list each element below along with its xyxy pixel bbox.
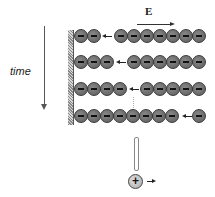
time-label: time (10, 65, 31, 77)
negative-ion (74, 82, 88, 96)
negative-ion (179, 55, 193, 69)
left-arrow-icon (119, 62, 126, 63)
negative-ion (140, 29, 154, 43)
field-arrow-icon (137, 24, 171, 25)
negative-ion (74, 55, 88, 69)
negative-ion (100, 109, 114, 123)
negative-ion (153, 55, 167, 69)
negative-ion (166, 55, 180, 69)
negative-ion (192, 109, 206, 123)
field-arrow-head (170, 22, 175, 26)
positive-ion-symbol: + (129, 174, 142, 188)
negative-ion (153, 82, 167, 96)
left-arrow-icon (132, 89, 139, 90)
negative-ion (126, 109, 140, 123)
plus-circle-icon: + (128, 174, 143, 189)
negative-ion (179, 82, 193, 96)
negative-ion (127, 55, 141, 69)
negative-ion (87, 55, 101, 69)
negative-ion (179, 29, 193, 43)
positive-ion-arrow-head (152, 179, 156, 183)
negative-ion (192, 29, 206, 43)
left-arrow-icon (185, 116, 192, 117)
negative-ion (140, 82, 154, 96)
negative-ion (87, 82, 101, 96)
electrode-surface (73, 30, 74, 125)
time-arrow-head (41, 104, 47, 110)
negative-ion (139, 109, 153, 123)
time-arrow-icon (44, 26, 45, 106)
negative-ion (87, 29, 101, 43)
left-arrow-icon (105, 36, 112, 37)
negative-ion (165, 109, 179, 123)
negative-ion (192, 55, 206, 69)
negative-ion (152, 109, 166, 123)
negative-ion (100, 82, 114, 96)
negative-ion (127, 29, 141, 43)
field-label: E (145, 5, 152, 17)
negative-ion (74, 29, 88, 43)
negative-ion (74, 109, 88, 123)
negative-ion (166, 29, 180, 43)
negative-ion (113, 109, 127, 123)
double-headed-vertical-arrow-icon (134, 137, 139, 171)
negative-ion (114, 29, 128, 43)
negative-ion (140, 55, 154, 69)
negative-ion (87, 109, 101, 123)
negative-ion (166, 82, 180, 96)
negative-ion (113, 82, 127, 96)
negative-ion (192, 82, 206, 96)
negative-ion (100, 55, 114, 69)
negative-ion (153, 29, 167, 43)
